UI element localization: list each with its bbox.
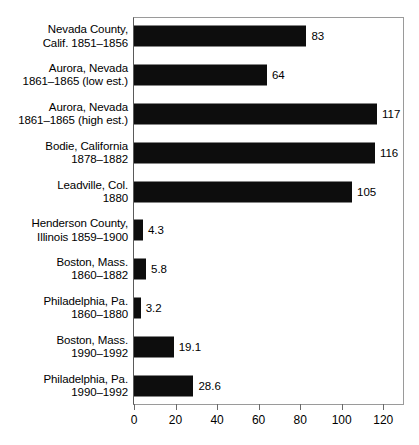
x-tick-mark bbox=[259, 404, 260, 410]
bar-category-label: Henderson County,Illinois 1859–1900 bbox=[0, 217, 128, 243]
category-label-line1: Philadelphia, Pa. bbox=[43, 372, 128, 384]
x-axis: 020406080100120 bbox=[133, 404, 404, 444]
x-tick-label: 100 bbox=[332, 413, 352, 427]
bar-row: Nevada County,Calif. 1851–185683 bbox=[0, 17, 419, 56]
x-tick-label: 60 bbox=[252, 413, 265, 427]
bar-chart: Nevada County,Calif. 1851–185683Aurora, … bbox=[0, 0, 419, 445]
x-tick-mark bbox=[217, 404, 218, 410]
bar bbox=[134, 103, 377, 124]
bar-category-label: Philadelphia, Pa.1990–1992 bbox=[0, 372, 128, 398]
bar-row: Boston, Mass.1860–18825.8 bbox=[0, 250, 419, 289]
x-tick-label: 40 bbox=[210, 413, 223, 427]
bar-category-label: Aurora, Nevada1861–1865 (low est.) bbox=[0, 62, 128, 88]
category-label-line2: Calif. 1851–1856 bbox=[0, 36, 128, 49]
category-label-line1: Leadville, Col. bbox=[57, 178, 128, 190]
bar-category-label: Aurora, Nevada1861–1865 (high est.) bbox=[0, 101, 128, 127]
bar bbox=[134, 65, 267, 86]
bar bbox=[134, 259, 146, 280]
category-label-line2: 1880 bbox=[0, 192, 128, 205]
category-label-line2: 1861–1865 (high est.) bbox=[0, 114, 128, 127]
category-label-line1: Boston, Mass. bbox=[56, 334, 128, 346]
category-label-line1: Philadelphia, Pa. bbox=[43, 295, 128, 307]
bar-row: Aurora, Nevada1861–1865 (high est.)117 bbox=[0, 95, 419, 134]
x-tick-mark bbox=[134, 404, 135, 410]
x-tick-label: 80 bbox=[293, 413, 306, 427]
x-tick-mark bbox=[300, 404, 301, 410]
bar-row: Bodie, California1878–1882116 bbox=[0, 133, 419, 172]
bar-row: Leadville, Col.1880105 bbox=[0, 172, 419, 211]
x-tick-mark bbox=[176, 404, 177, 410]
x-tick-mark bbox=[342, 404, 343, 410]
category-label-line2: 1860–1882 bbox=[0, 269, 128, 282]
bar-category-label: Leadville, Col.1880 bbox=[0, 178, 128, 204]
bar-value-label: 3.2 bbox=[146, 301, 162, 314]
bar-category-label: Boston, Mass.1860–1882 bbox=[0, 256, 128, 282]
bar-category-label: Boston, Mass.1990–1992 bbox=[0, 334, 128, 360]
x-tick-mark bbox=[383, 404, 384, 410]
bar bbox=[134, 220, 143, 241]
category-label-line1: Bodie, California bbox=[45, 140, 128, 152]
bar-value-label: 4.3 bbox=[148, 224, 164, 237]
bar bbox=[134, 336, 174, 357]
category-label-line2: 1861–1865 (low est.) bbox=[0, 75, 128, 88]
bar-row: Philadelphia, Pa.1860–18803.2 bbox=[0, 289, 419, 328]
category-label-line1: Boston, Mass. bbox=[56, 256, 128, 268]
x-tick-label: 20 bbox=[169, 413, 182, 427]
bar bbox=[134, 181, 352, 202]
category-label-line2: 1990–1992 bbox=[0, 386, 128, 399]
category-label-line1: Aurora, Nevada bbox=[49, 62, 128, 74]
bar-row: Aurora, Nevada1861–1865 (low est.)64 bbox=[0, 56, 419, 95]
bar-value-label: 28.6 bbox=[198, 379, 220, 392]
bar-value-label: 83 bbox=[311, 30, 324, 43]
bar bbox=[134, 297, 141, 318]
bar-row: Philadelphia, Pa.1990–199228.6 bbox=[0, 366, 419, 405]
category-label-line2: 1990–1992 bbox=[0, 347, 128, 360]
bar bbox=[134, 375, 193, 396]
x-tick-label: 120 bbox=[373, 413, 393, 427]
bar-row: Boston, Mass.1990–199219.1 bbox=[0, 327, 419, 366]
bar-category-label: Philadelphia, Pa.1860–1880 bbox=[0, 295, 128, 321]
bar bbox=[134, 26, 306, 47]
bar bbox=[134, 142, 375, 163]
category-label-line2: Illinois 1859–1900 bbox=[0, 230, 128, 243]
bar-value-label: 117 bbox=[382, 107, 400, 120]
bar-value-label: 64 bbox=[272, 69, 285, 82]
bar-value-label: 19.1 bbox=[179, 340, 201, 353]
bar-category-label: Nevada County,Calif. 1851–1856 bbox=[0, 23, 128, 49]
x-tick-label: 0 bbox=[131, 413, 138, 427]
bar-category-label: Bodie, California1878–1882 bbox=[0, 140, 128, 166]
category-label-line1: Aurora, Nevada bbox=[49, 101, 128, 113]
category-label-line2: 1860–1880 bbox=[0, 308, 128, 321]
category-label-line2: 1878–1882 bbox=[0, 153, 128, 166]
bar-value-label: 116 bbox=[380, 146, 398, 159]
category-label-line1: Henderson County, bbox=[31, 217, 128, 229]
bar-value-label: 5.8 bbox=[151, 263, 167, 276]
bar-value-label: 105 bbox=[357, 185, 376, 198]
bar-row: Henderson County,Illinois 1859–19004.3 bbox=[0, 211, 419, 250]
category-label-line1: Nevada County, bbox=[48, 23, 128, 35]
